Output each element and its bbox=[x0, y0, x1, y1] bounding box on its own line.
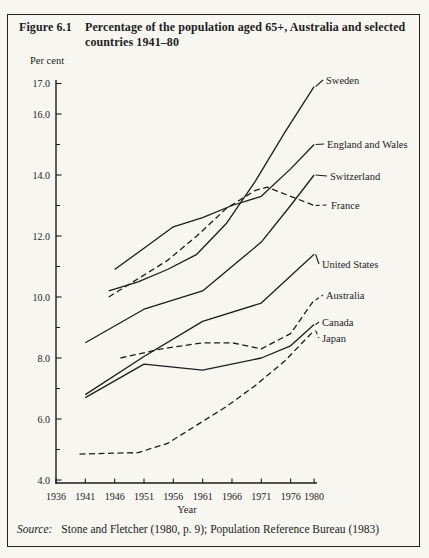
source-line: Source:Stone and Fletcher (1980, p. 9); … bbox=[17, 523, 379, 535]
series-label-japan: Japan bbox=[322, 333, 347, 344]
series-leader-canada bbox=[316, 322, 319, 324]
source-text: Stone and Fletcher (1980, p. 9); Populat… bbox=[61, 523, 379, 535]
y-tick-label: 14.0 bbox=[33, 170, 51, 181]
series-leader-switzerland bbox=[316, 175, 327, 176]
series-label-canada: Canada bbox=[322, 317, 354, 328]
x-tick-label: 1961 bbox=[193, 491, 213, 502]
x-tick-label: 1936 bbox=[46, 491, 66, 502]
y-tick-label: 10.0 bbox=[33, 292, 51, 303]
series-label-sweden: Sweden bbox=[326, 75, 360, 86]
series-label-australia: Australia bbox=[326, 290, 365, 301]
x-tick-label: 1946 bbox=[105, 491, 125, 502]
x-tick-label: 1976 bbox=[281, 491, 301, 502]
y-axis-title: Per cent bbox=[30, 55, 64, 66]
series-label-switzerland: Switzerland bbox=[330, 171, 381, 182]
series-leader-japan bbox=[316, 331, 319, 338]
y-tick-label: 16.0 bbox=[33, 109, 51, 120]
x-tick-label: 1971 bbox=[251, 491, 271, 502]
source-label: Source: bbox=[17, 523, 52, 535]
series-line-canada bbox=[85, 325, 314, 398]
y-tick-label: 17.0 bbox=[33, 78, 51, 89]
series-line-england-and-wales bbox=[115, 145, 314, 270]
series-label-england-and-wales: England and Wales bbox=[327, 139, 408, 150]
series-line-united-states bbox=[85, 254, 314, 394]
x-tick-label: 1941 bbox=[75, 491, 95, 502]
series-leader-united-states bbox=[316, 254, 319, 264]
line-chart-svg: 4.06.08.010.012.014.016.017.019361941194… bbox=[0, 0, 429, 558]
series-leader-england-and-wales bbox=[316, 144, 324, 145]
x-axis-title: Year bbox=[177, 504, 197, 515]
series-label-france: France bbox=[331, 200, 360, 211]
x-tick-label: 1980 bbox=[304, 491, 324, 502]
scanned-figure-page: Figure 6.1 Percentage of the population … bbox=[0, 0, 429, 558]
y-tick-label: 8.0 bbox=[38, 353, 51, 364]
x-tick-label: 1966 bbox=[222, 491, 242, 502]
series-leader-sweden bbox=[316, 80, 323, 87]
series-leader-australia bbox=[316, 295, 323, 300]
x-tick-label: 1956 bbox=[163, 491, 183, 502]
series-leader-france bbox=[316, 205, 328, 206]
series-line-japan bbox=[80, 331, 315, 455]
y-tick-label: 6.0 bbox=[38, 414, 51, 425]
series-line-australia bbox=[121, 300, 315, 358]
series-line-sweden bbox=[109, 87, 314, 291]
series-label-united-states: United States bbox=[322, 259, 378, 270]
series-line-switzerland bbox=[85, 175, 314, 343]
y-tick-label: 12.0 bbox=[33, 231, 51, 242]
x-tick-label: 1951 bbox=[134, 491, 154, 502]
y-tick-label: 4.0 bbox=[38, 475, 51, 486]
